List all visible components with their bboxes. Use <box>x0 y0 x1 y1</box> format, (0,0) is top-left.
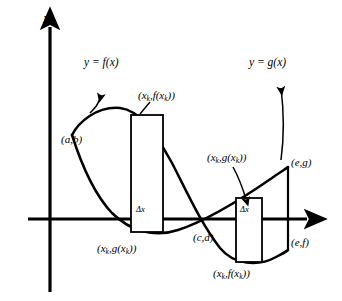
point-label-a-b: (a,b) <box>61 134 82 145</box>
point-label-e-g: (e,g) <box>291 157 311 168</box>
curve-f-label: y = f(x) <box>84 57 119 69</box>
rect1-bot-close: )) <box>129 242 136 254</box>
rectangle-left <box>131 115 163 232</box>
point-label-rect1-top: (xk,f(xk)) <box>138 90 175 103</box>
rect2-top-open: (x <box>207 151 216 163</box>
leader-line-rect1-top <box>140 102 150 114</box>
point-label-c-d: (c,d) <box>193 232 213 243</box>
curve-g-label: y = g(x) <box>249 57 286 69</box>
point-label-e-f: (e,f) <box>291 237 309 248</box>
rect2-top-mid: ,g(x <box>219 151 236 163</box>
rect2-bot-mid: ,f(x <box>225 267 239 279</box>
rect1-top-close: )) <box>168 89 175 101</box>
rect1-bot-open: (x <box>97 242 106 254</box>
diagram-svg <box>0 0 342 301</box>
rect2-bot-close: )) <box>243 267 250 279</box>
leader-arrow-rect2-top <box>233 167 246 199</box>
y-axis-label: y <box>44 12 49 23</box>
figure-canvas: y x y = f(x) y = g(x) (a,b) (c,d) (e,g) … <box>0 0 342 301</box>
point-label-rect1-bottom: (xk,g(xk)) <box>97 243 136 256</box>
rect1-top-open: (x <box>138 89 147 101</box>
rect1-bot-mid: ,g(x <box>109 242 126 254</box>
delta-x-label-right: Δx <box>240 205 249 214</box>
delta-x-label-left: Δx <box>136 205 145 214</box>
point-label-rect2-bottom: (xk,f(xk)) <box>213 268 250 281</box>
rect1-top-mid: ,f(x <box>150 89 164 101</box>
leader-arrow-g <box>281 88 283 160</box>
point-label-rect2-top: (xk,g(xk)) <box>207 152 246 165</box>
x-axis-label: x <box>313 212 319 223</box>
rect2-top-close: )) <box>239 151 246 163</box>
rect2-bot-open: (x <box>213 267 222 279</box>
